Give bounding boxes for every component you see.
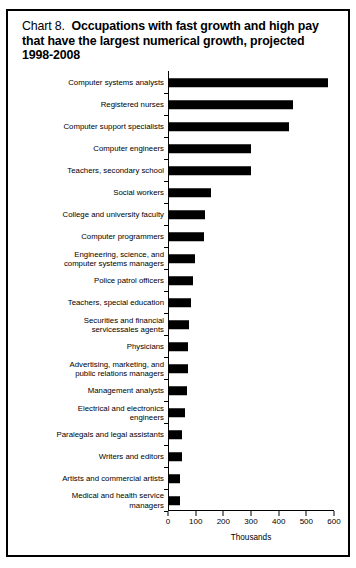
chart-row: Writers and editors xyxy=(16,447,334,467)
bar xyxy=(168,408,185,418)
chart-figure: Chart 8.Occupations with fast growth and… xyxy=(6,9,350,557)
category-label: Medical and health service managers xyxy=(16,491,168,509)
page-title: Chart 8.Occupations with fast growth and… xyxy=(22,19,336,63)
chart-row: Electrical and electronics engineers xyxy=(16,403,334,423)
y-axis-line xyxy=(168,71,169,511)
bar xyxy=(168,474,180,484)
x-tick-label: 400 xyxy=(272,516,285,527)
chart-row: Teachers, special education xyxy=(16,293,334,313)
chart-row: Police patrol officers xyxy=(16,271,334,291)
bar xyxy=(168,166,251,176)
bar-cell xyxy=(168,359,334,379)
bar xyxy=(168,78,328,88)
bar xyxy=(168,496,180,506)
bar-cell xyxy=(168,337,334,357)
bar-cell xyxy=(168,271,334,291)
bar-cell xyxy=(168,293,334,313)
category-label: Teachers, special education xyxy=(16,298,168,307)
category-label: Advertising, marketing, and public relat… xyxy=(16,360,168,378)
category-label: Registered nurses xyxy=(16,100,168,109)
bar-cell xyxy=(168,447,334,467)
bar xyxy=(168,188,211,198)
bar xyxy=(168,452,182,462)
category-label: Computer programmers xyxy=(16,232,168,241)
bar xyxy=(168,386,187,396)
chart-row: Engineering, science, and computer syste… xyxy=(16,249,334,269)
category-label: Electrical and electronics engineers xyxy=(16,404,168,422)
category-label: Physicians xyxy=(16,342,168,351)
bar xyxy=(168,122,289,132)
bar-cell xyxy=(168,95,334,115)
chart-row: Management analysts xyxy=(16,381,334,401)
chart-row: Paralegals and legal assistants xyxy=(16,425,334,445)
bar-cell xyxy=(168,381,334,401)
category-label: Computer systems analysts xyxy=(16,78,168,87)
plot-area: Computer systems analystsRegistered nurs… xyxy=(16,73,334,555)
x-axis-title: Thousands xyxy=(168,533,334,543)
category-label: Management analysts xyxy=(16,386,168,395)
bar-cell xyxy=(168,73,334,93)
category-label: Social workers xyxy=(16,188,168,197)
bar-cell xyxy=(168,469,334,489)
bar xyxy=(168,210,205,220)
category-label: College and university faculty xyxy=(16,210,168,219)
category-label: Artists and commercial artists xyxy=(16,474,168,483)
category-label: Police patrol officers xyxy=(16,276,168,285)
chart-row: Medical and health service managers xyxy=(16,490,334,510)
bar xyxy=(168,364,188,374)
bar xyxy=(168,100,293,110)
bar xyxy=(168,276,193,286)
x-tick-label: 500 xyxy=(300,516,313,527)
category-label: Teachers, secondary school xyxy=(16,166,168,175)
bar-rows: Computer systems analystsRegistered nurs… xyxy=(16,73,334,511)
chart-row: Securities and financial servicessales a… xyxy=(16,315,334,335)
bar-cell xyxy=(168,139,334,159)
chart-row: Computer systems analysts xyxy=(16,73,334,93)
chart-row: Physicians xyxy=(16,337,334,357)
chart-number: Chart 8. xyxy=(22,19,71,33)
x-tick-label: 200 xyxy=(217,516,230,527)
category-label: Paralegals and legal assistants xyxy=(16,430,168,439)
bar-cell xyxy=(168,183,334,203)
chart-row: Artists and commercial artists xyxy=(16,469,334,489)
bar xyxy=(168,320,189,330)
bar xyxy=(168,144,251,154)
chart-title-block: Chart 8.Occupations with fast growth and… xyxy=(8,11,348,69)
bar-cell xyxy=(168,425,334,445)
bar-cell xyxy=(168,161,334,181)
bar-cell xyxy=(168,315,334,335)
x-tick-label: 0 xyxy=(166,516,170,527)
x-axis-ticks: 0100200300400500600 xyxy=(168,511,334,527)
x-tick-label: 100 xyxy=(189,516,202,527)
chart-row: Registered nurses xyxy=(16,95,334,115)
chart-row: Advertising, marketing, and public relat… xyxy=(16,359,334,379)
bar xyxy=(168,430,182,440)
bar-cell xyxy=(168,227,334,247)
chart-row: Teachers, secondary school xyxy=(16,161,334,181)
category-label: Writers and editors xyxy=(16,452,168,461)
x-tick-label: 600 xyxy=(327,516,340,527)
bar-cell xyxy=(168,117,334,137)
bar xyxy=(168,254,195,264)
bar-cell xyxy=(168,205,334,225)
chart-row: Social workers xyxy=(16,183,334,203)
category-label: Computer support specialists xyxy=(16,122,168,131)
bar xyxy=(168,232,204,242)
bar xyxy=(168,298,191,308)
chart-row: College and university faculty xyxy=(16,205,334,225)
bar xyxy=(168,342,188,352)
bar-cell xyxy=(168,490,334,510)
category-label: Engineering, science, and computer syste… xyxy=(16,250,168,268)
x-tick-label: 300 xyxy=(244,516,257,527)
bar-cell xyxy=(168,249,334,269)
chart-row: Computer programmers xyxy=(16,227,334,247)
bar-cell xyxy=(168,403,334,423)
chart-row: Computer support specialists xyxy=(16,117,334,137)
category-label: Computer engineers xyxy=(16,144,168,153)
category-label: Securities and financial servicessales a… xyxy=(16,316,168,334)
chart-row: Computer engineers xyxy=(16,139,334,159)
